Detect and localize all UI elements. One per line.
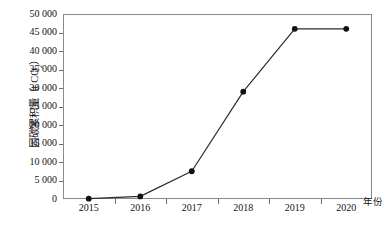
y-axis-tick-label: 5 000	[0, 175, 57, 185]
y-axis-tick-label: 40 000	[0, 46, 57, 56]
y-axis-tick-label: 0	[0, 194, 57, 204]
y-axis-tick-label: 25 000	[0, 101, 57, 111]
y-axis-tick-label: 20 000	[0, 120, 57, 130]
y-axis-tick-label: 15 000	[0, 138, 57, 148]
y-axis-tick-label: 10 000	[0, 157, 57, 167]
y-axis-tick-labels: 05 00010 00015 00020 00025 00030 00035 0…	[0, 0, 57, 232]
x-axis-title: 年份	[363, 198, 383, 208]
y-axis-tick-label: 30 000	[0, 83, 57, 93]
y-axis-tick-label: 35 000	[0, 64, 57, 74]
plot-area	[63, 14, 372, 199]
chart-container: 固碳累积量（t CO2） 05 00010 00015 00020 00025 …	[0, 0, 387, 232]
y-axis-tick-label: 45 000	[0, 27, 57, 37]
y-axis-tick-label: 50 000	[0, 9, 57, 19]
